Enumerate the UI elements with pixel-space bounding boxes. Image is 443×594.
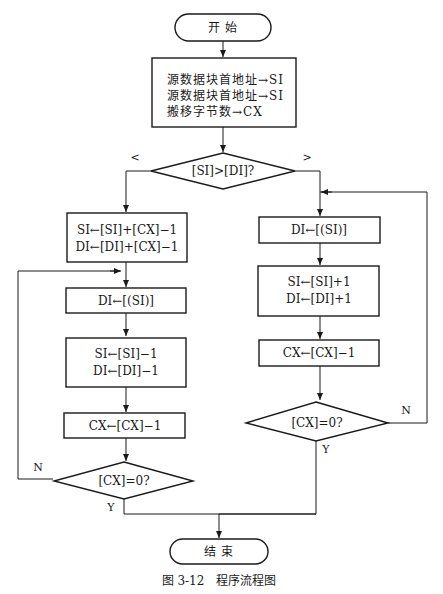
right-move-label: DI←[(SI)] [291,223,347,237]
start-terminal: 开 始 [175,14,271,41]
left-setup-line-2: DI←[DI]+[CX]−1 [76,240,179,254]
edge-compare-greater [295,171,320,216]
left-move-label: DI←[(SI)] [98,294,154,308]
end-label: 结 束 [204,545,235,559]
left-dec-line-1: SI←[SI]−1 [94,347,157,361]
edge-compare-less [126,171,151,212]
left-dec-process: SI←[SI]−1 DI←[DI]−1 [66,338,186,387]
left-move-process: DI←[(SI)] [66,288,186,313]
init-process: 源数据块首地址→SI 源数据块首地址→SI 搬移字节数→CX [152,58,296,127]
edge-right-yes [219,441,316,514]
left-setup-process: SI←[SI]+[CX]−1 DI←[DI]+[CX]−1 [67,213,187,262]
init-line-1: 源数据块首地址→SI [167,72,284,87]
right-cx-process: CX←[CX]−1 [259,340,379,366]
left-cx-label: CX←[CX]−1 [89,419,162,433]
right-inc-line-1: SI←[SI]+1 [287,275,350,289]
left-setup-line-1: SI←[SI]+[CX]−1 [77,223,177,237]
right-inc-process: SI←[SI]+1 DI←[DI]+1 [258,266,379,316]
label-less: < [130,151,139,164]
label-left-no: N [33,461,43,474]
end-terminal: 结 束 [170,539,268,564]
left-dec-line-2: DI←[DI]−1 [93,364,159,378]
compare-label: [SI]>[DI]? [192,164,255,178]
right-cx-label: CX←[CX]−1 [283,346,356,360]
program-flowchart: 开 始 源数据块首地址→SI 源数据块首地址→SI 搬移字节数→CX [SI]>… [0,0,443,594]
label-right-no: N [401,404,411,417]
init-line-2: 源数据块首地址→SI [167,88,284,103]
right-test-label: [CX]=0? [291,416,342,430]
figure-caption: 图 3-12 程序流程图 [162,573,277,588]
left-cx-process: CX←[CX]−1 [64,413,185,438]
label-right-yes: Y [321,443,330,456]
start-label: 开 始 [208,21,239,35]
left-test-label: [CX]=0? [98,474,149,488]
init-line-3: 搬移字节数→CX [167,104,263,119]
edge-left-yes [124,498,316,514]
compare-decision: [SI]>[DI]? [151,153,295,189]
right-move-process: DI←[(SI)] [259,217,380,243]
left-test-decision: [CX]=0? [54,462,193,499]
right-test-decision: [CX]=0? [246,402,388,441]
label-greater: > [302,151,311,164]
right-inc-line-2: DI←[DI]+1 [286,292,352,306]
label-left-yes: Y [106,501,115,514]
